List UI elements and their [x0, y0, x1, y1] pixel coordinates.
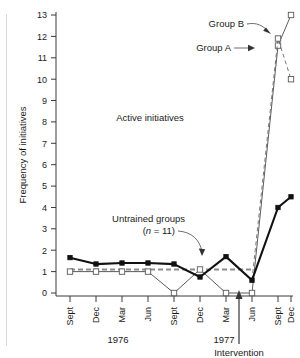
- y-tick-1: 1: [42, 267, 47, 277]
- x-axis-tick-labels: Sept Dec Mar Jun Sept Dec Mar Jun Sept D…: [65, 307, 296, 326]
- y-axis-tick-labels: 13 12 11 10 9 8 7 6 5 4 3 2 1 0: [37, 10, 47, 298]
- series-group-b-markers: [67, 12, 293, 295]
- group-a-label: Group A: [196, 42, 232, 53]
- x-tick-9: Dec: [286, 307, 296, 324]
- y-tick-3: 3: [42, 224, 47, 234]
- year-label-1976: 1976: [107, 334, 128, 345]
- y-axis-title: Frequency of initiatives: [17, 106, 28, 203]
- y-tick-9: 9: [42, 96, 47, 106]
- y-tick-7: 7: [42, 139, 47, 149]
- x-tick-7: Jun: [247, 307, 257, 322]
- y-axis: 13 12 11 10 9 8 7 6 5 4 3 2 1 0 Frequenc…: [17, 10, 56, 298]
- x-axis-ticks: [70, 296, 291, 302]
- y-tick-13: 13: [37, 10, 47, 20]
- y-tick-2: 2: [42, 246, 47, 256]
- y-tick-0: 0: [42, 288, 47, 298]
- y-tick-5: 5: [42, 181, 47, 191]
- y-tick-11: 11: [38, 53, 47, 63]
- intervention-marker: Intervention: [214, 290, 264, 358]
- series-group-a-post: [252, 36, 294, 280]
- intervention-label: Intervention: [214, 347, 264, 358]
- annotation-group-a: Group A: [196, 42, 255, 53]
- x-tick-3: Jun: [143, 307, 153, 322]
- annotation-group-b: Group B: [209, 18, 271, 34]
- untrained-groups-label: Untrained groups: [112, 213, 185, 224]
- y-tick-10: 10: [37, 75, 47, 85]
- x-axis-year-labels: 1976 1977: [107, 334, 234, 345]
- untrained-n-value: = 11): [151, 225, 175, 236]
- y-tick-8: 8: [42, 117, 47, 127]
- plot-title: Active initiatives: [116, 112, 184, 123]
- x-tick-1: Dec: [91, 307, 101, 324]
- x-tick-8: Sept: [273, 307, 283, 326]
- annotation-untrained-groups: Untrained groups (n = 11): [112, 213, 205, 256]
- y-tick-4: 4: [42, 203, 47, 213]
- y-tick-12: 12: [37, 32, 47, 42]
- untrained-groups-n-line: (n = 11): [143, 225, 175, 236]
- year-label-1977: 1977: [213, 334, 234, 345]
- chart-figure: 13 12 11 10 9 8 7 6 5 4 3 2 1 0 Frequenc…: [0, 0, 300, 358]
- chart-svg: 13 12 11 10 9 8 7 6 5 4 3 2 1 0 Frequenc…: [0, 0, 300, 358]
- series-group-b: [67, 12, 293, 295]
- x-axis: Sept Dec Mar Jun Sept Dec Mar Jun Sept D…: [56, 296, 296, 345]
- group-b-label: Group B: [209, 18, 244, 29]
- y-axis-ticks: [51, 15, 56, 293]
- x-tick-5: Dec: [195, 307, 205, 324]
- x-tick-6: Mar: [221, 307, 231, 323]
- x-tick-2: Mar: [117, 307, 127, 323]
- x-tick-0: Sept: [65, 307, 75, 326]
- x-tick-4: Sept: [169, 307, 179, 326]
- y-tick-6: 6: [42, 160, 47, 170]
